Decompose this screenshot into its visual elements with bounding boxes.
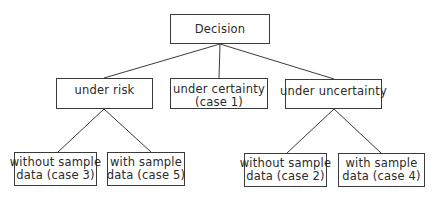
node-label: under risk xyxy=(75,84,135,97)
edge-decision-risk xyxy=(104,44,220,78)
node-label-line2: data (case 5) xyxy=(107,169,186,182)
node-label: under uncertainty xyxy=(280,85,387,98)
edge-decision-uncertainty xyxy=(220,44,334,79)
node-risk-with-sample: with sample data (case 5) xyxy=(107,152,185,186)
node-label-line2: data (case 2) xyxy=(246,170,325,183)
node-uncertainty-without-sample: without sample data (case 2) xyxy=(244,153,327,187)
node-uncertainty-with-sample: with sample data (case 4) xyxy=(338,153,425,187)
edge-risk-without-sample xyxy=(58,109,104,152)
node-under-certainty: under certainty (case 1) xyxy=(170,78,268,109)
node-under-risk: under risk xyxy=(56,78,153,109)
edge-uncertainty-with-sample xyxy=(334,109,381,153)
edge-risk-with-sample xyxy=(104,109,151,152)
edge-uncertainty-without-sample xyxy=(287,109,334,153)
node-label-line2: (case 1) xyxy=(195,96,243,109)
node-label: Decision xyxy=(195,23,246,36)
node-decision: Decision xyxy=(170,14,270,44)
node-label-line2: data (case 4) xyxy=(342,170,421,183)
node-risk-without-sample: without sample data (case 3) xyxy=(14,152,97,186)
edge-decision-certainty xyxy=(219,44,220,78)
node-under-uncertainty: under uncertainty xyxy=(285,79,382,109)
node-label-line2: data (case 3) xyxy=(16,169,95,182)
